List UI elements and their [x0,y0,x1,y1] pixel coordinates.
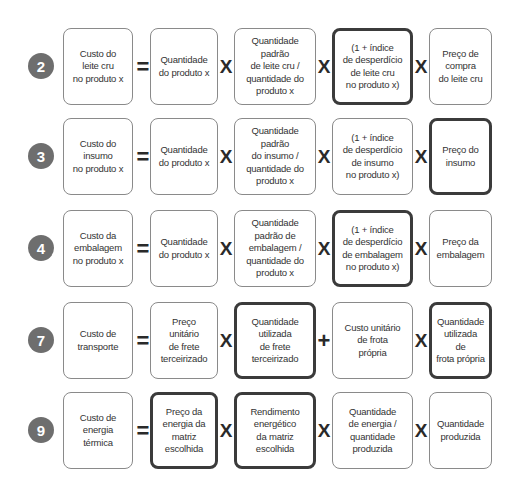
term-box: Quantidade padrão do insumo / quantidade… [234,118,316,195]
term-label: Rendimento energético da matriz escolhid… [250,406,299,456]
multiply-operator: X [414,392,428,469]
multiply-operator: X [317,118,331,195]
equals-operator: = [136,392,150,469]
term-box: Quantidade do produto x [150,118,218,195]
term-box: Preço de compra do leite cru [429,28,492,105]
term-label: Preço da energia da matriz escolhida [163,406,206,456]
term-label: (1 + índice de desperdício de embalagem … [342,224,402,274]
multiply-operator: X [414,28,428,105]
multiply-operator: X [317,28,331,105]
formula-row-3: 3Custo do insumo no produto x=Quantidade… [0,118,517,195]
formula-number-badge: 3 [28,143,54,169]
term-label: Preço de compra do leite cru [438,48,482,86]
multiply-operator: X [317,210,331,287]
term-label: Quantidade padrão do insumo / quantidade… [246,125,304,188]
term-label: Quantidade produzida [437,418,484,443]
multiply-operator: X [219,28,233,105]
formula-row-4: 4Custo da embalagem no produto x=Quantid… [0,210,517,287]
term-box: (1 + índice de desperdício de insumo no … [332,118,413,195]
equals-operator: = [136,118,150,195]
equals-operator: = [136,302,150,379]
formula-number-badge: 7 [28,327,54,353]
equals-operator: = [136,210,150,287]
plus-operator: + [317,302,331,379]
highlighted-term-box: Preço do insumo [429,118,492,195]
term-label: Preço do insumo [442,144,478,169]
formula-number-badge: 9 [28,417,54,443]
multiply-operator: X [414,302,428,379]
multiply-operator: X [219,392,233,469]
multiply-operator: X [414,210,428,287]
highlighted-term-box: Rendimento energético da matriz escolhid… [234,392,316,469]
formula-number-badge: 2 [28,53,54,79]
term-box: Custo unitário de frota própria [332,302,413,379]
result-label: Custo de transporte [78,328,119,353]
term-label: Quantidade utilizada de frete terceiriza… [251,316,298,366]
term-label: Quantidade padrão de embalagem / quantid… [246,217,304,280]
result-box: Custo de energia térmica [63,392,133,469]
highlighted-term-box: Quantidade utilizada de frete terceiriza… [234,302,316,379]
multiply-operator: X [317,392,331,469]
term-label: Quantidade do produto x [159,144,209,169]
result-box: Custo da embalagem no produto x [63,210,133,287]
result-box: Custo do leite cru no produto x [63,28,133,105]
term-label: Custo unitário de frota própria [345,322,401,360]
result-label: Custo de energia térmica [80,412,116,450]
formula-row-9: 9Custo de energia térmica=Preço da energ… [0,392,517,469]
term-box: Preço unitário de frete terceirizado [150,302,218,379]
term-label: Quantidade padrão de leite cru / quantid… [246,35,304,98]
highlighted-term-box: Preço da energia da matriz escolhida [150,392,218,469]
highlighted-term-box: (1 + índice de desperdício de leite cru … [332,28,413,105]
multiply-operator: X [414,118,428,195]
term-label: Quantidade utilizada de frota própria [436,316,485,366]
multiply-operator: X [219,302,233,379]
term-label: Quantidade do produto x [159,236,209,261]
term-box: Quantidade produzida [429,392,492,469]
result-label: Custo da embalagem no produto x [73,230,123,268]
term-label: (1 + índice de desperdício de leite cru … [343,42,403,92]
multiply-operator: X [219,118,233,195]
term-box: Preço da embalagem [429,210,492,287]
result-label: Custo do insumo no produto x [73,138,123,176]
result-box: Custo do insumo no produto x [63,118,133,195]
term-box: Quantidade de energia / quantidade produ… [332,392,413,469]
result-label: Custo do leite cru no produto x [73,48,123,86]
term-box: Quantidade do produto x [150,210,218,287]
term-label: Preço unitário de frete terceirizado [161,316,208,366]
term-box: Quantidade do produto x [150,28,218,105]
result-box: Custo de transporte [63,302,133,379]
multiply-operator: X [219,210,233,287]
term-label: (1 + índice de desperdício de insumo no … [343,132,403,182]
equals-operator: = [136,28,150,105]
term-box: Quantidade padrão de leite cru / quantid… [234,28,316,105]
formula-number-badge: 4 [28,235,54,261]
formula-row-2: 2Custo do leite cru no produto x=Quantid… [0,28,517,105]
term-label: Preço da embalagem [437,236,485,261]
formula-row-7: 7Custo de transporte=Preço unitário de f… [0,302,517,379]
term-label: Quantidade do produto x [159,54,209,79]
term-label: Quantidade de energia / quantidade produ… [349,406,397,456]
term-box: Quantidade padrão de embalagem / quantid… [234,210,316,287]
highlighted-term-box: (1 + índice de desperdício de embalagem … [332,210,413,287]
highlighted-term-box: Quantidade utilizada de frota própria [429,302,492,379]
